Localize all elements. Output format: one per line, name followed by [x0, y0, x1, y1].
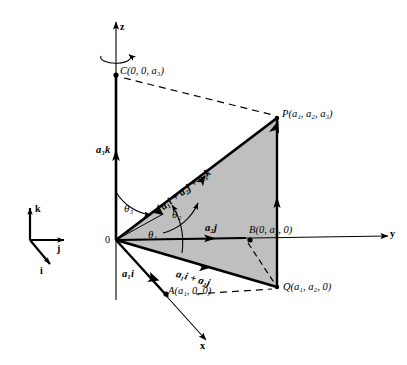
- point-marker-B: [247, 237, 252, 242]
- basis-label-k: k: [35, 203, 41, 214]
- basis-i-axis: [30, 240, 50, 264]
- dashed-line-C-to-P: [124, 78, 273, 115]
- figure-canvas: z y x 0 C(0, 0, a₃) P(a₁, a₂, a₃) B(0, a…: [0, 0, 407, 365]
- vector-label-a2j: a₂j: [205, 222, 217, 233]
- vector-label-a3k: a₃k: [96, 144, 110, 155]
- point-marker-P: [275, 116, 279, 120]
- origin-label: 0: [105, 234, 110, 245]
- angle-arc-theta3: [116, 192, 151, 215]
- angle-label-theta2: θ₂: [172, 208, 181, 220]
- basis-label-j: j: [57, 243, 60, 254]
- point-label-Q: Q(a₁, a₂, 0): [283, 281, 331, 292]
- point-label-C: C(0, 0, a₃): [120, 65, 164, 76]
- angle-label-theta3: θ₃: [124, 202, 133, 214]
- vector-label-a1i: a₁i: [122, 268, 134, 279]
- point-label-P: P(a₁, a₂, a₃): [282, 108, 333, 119]
- axis-label-y: y: [390, 228, 395, 239]
- axis-label-z: z: [120, 21, 124, 32]
- point-marker-C: [113, 72, 118, 77]
- point-marker-Q: [275, 285, 279, 289]
- diagram-svg: [0, 0, 407, 365]
- axis-label-x: x: [200, 340, 205, 351]
- basis-label-i: i: [40, 265, 43, 276]
- angle-label-theta1: θ₁: [148, 228, 157, 240]
- point-label-B: B(0, a₂, 0): [249, 224, 292, 235]
- shaded-triangle-OPQ: [116, 118, 277, 287]
